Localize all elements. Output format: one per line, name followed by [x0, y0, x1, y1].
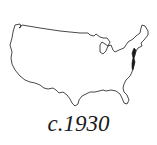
us-border-path [10, 24, 148, 106]
us-outline-icon [0, 0, 157, 112]
map-caption: c.1930 [0, 110, 157, 138]
east-coast-detail [132, 48, 136, 70]
us-map [0, 0, 157, 112]
